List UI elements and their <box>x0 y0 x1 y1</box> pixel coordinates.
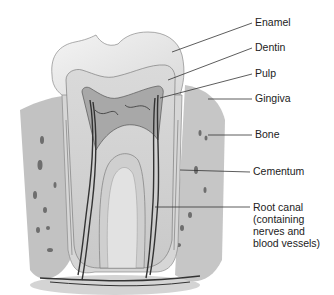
tooth <box>52 32 184 273</box>
label-enamel: Enamel <box>255 17 291 28</box>
label-bone: Bone <box>255 129 280 140</box>
label-root-canal: Root canal (containing nerves and blood … <box>253 201 320 249</box>
label-cementum: Cementum <box>253 166 304 177</box>
label-gingiva: Gingiva <box>255 93 291 104</box>
label-pulp: Pulp <box>255 68 276 79</box>
label-dentin: Dentin <box>255 42 285 53</box>
